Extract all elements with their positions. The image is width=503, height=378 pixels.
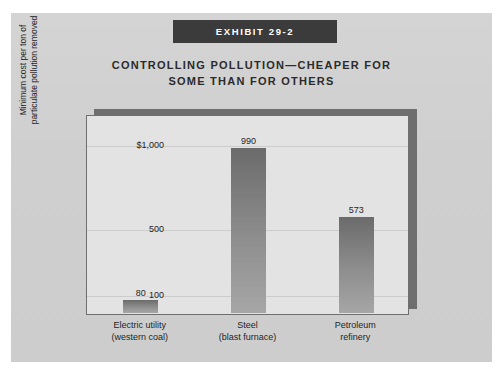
exhibit-banner-row: EXHIBIT 29-2 [11, 20, 492, 43]
x-axis-category-line: Steel [188, 319, 308, 331]
chart-title-line-2: SOME THAN FOR OTHERS [11, 73, 492, 89]
y-axis-title-line-2: particulate pollution removed [29, 0, 40, 150]
chart-title-line-1: CONTROLLING POLLUTION—CHEAPER FOR [11, 57, 492, 73]
bar [231, 148, 266, 313]
x-axis-category-label: Steel(blast furnace) [188, 319, 308, 343]
exhibit-banner-label: EXHIBIT 29-2 [173, 20, 337, 43]
chart-title: CONTROLLING POLLUTION—CHEAPER FOR SOME T… [11, 57, 492, 89]
x-axis-category-line: (blast furnace) [188, 331, 308, 343]
exhibit-figure: EXHIBIT 29-2 CONTROLLING POLLUTION—CHEAP… [11, 13, 492, 362]
x-axis-category-line: Petroleum [295, 319, 415, 331]
x-axis-category-line: (western coal) [80, 331, 200, 343]
x-axis-category-label: Electric utility(western coal) [80, 319, 200, 343]
y-tick-label: $1,000 [104, 140, 164, 150]
bar [339, 217, 374, 313]
y-axis-title-line-1: Minimum cost per ton of [18, 0, 29, 150]
y-tick-label: 100 [104, 290, 164, 300]
bar-value-label: 990 [219, 136, 279, 146]
x-axis-category-label: Petroleumrefinery [295, 319, 415, 343]
bar [123, 300, 158, 313]
x-axis-category-line: Electric utility [80, 319, 200, 331]
y-tick-label: 500 [104, 224, 164, 234]
x-axis-category-line: refinery [295, 331, 415, 343]
bar-value-label: 573 [326, 205, 386, 215]
y-axis-title: Minimum cost per ton of particulate poll… [18, 0, 40, 150]
